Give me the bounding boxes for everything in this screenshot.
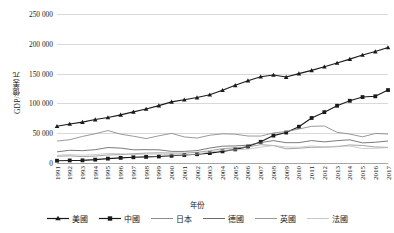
legend-label: 德國 xyxy=(228,213,244,224)
data-point-marker xyxy=(386,45,391,49)
legend-label: 日本 xyxy=(176,213,192,224)
x-tick-label: 1991 xyxy=(54,166,62,180)
data-point-marker xyxy=(131,155,135,159)
x-tick-label: 2003 xyxy=(206,166,214,180)
series-line xyxy=(57,146,388,156)
x-tick-label: 1992 xyxy=(66,166,74,180)
x-tick-label: 1994 xyxy=(92,166,100,180)
legend-swatch-square-icon xyxy=(99,214,121,223)
data-point-marker xyxy=(272,134,276,138)
data-point-marker xyxy=(144,155,148,159)
x-axis-line xyxy=(57,163,388,164)
series-中國 xyxy=(55,88,390,162)
data-point-marker xyxy=(386,88,390,92)
legend-item-法國[interactable]: 法國 xyxy=(307,213,348,224)
series-line xyxy=(57,126,388,141)
x-tick-label: 2016 xyxy=(372,166,380,180)
x-tick-label: 2011 xyxy=(308,166,316,180)
data-point-marker xyxy=(55,159,59,163)
x-tick-label: 2012 xyxy=(321,166,329,180)
x-tick-label: 2008 xyxy=(270,166,278,180)
series-美國 xyxy=(55,45,391,128)
chart-legend: 美國中國日本德國英國法國 xyxy=(0,210,394,226)
series-法國 xyxy=(57,146,388,156)
x-tick-label: 1998 xyxy=(143,166,151,180)
plot-area xyxy=(57,14,388,163)
y-tick-label: 250 000 xyxy=(29,10,53,19)
x-tick-label: 2006 xyxy=(244,166,252,180)
legend-item-德國[interactable]: 德國 xyxy=(203,213,244,224)
legend-label: 英國 xyxy=(280,213,296,224)
legend-item-日本[interactable]: 日本 xyxy=(151,213,192,224)
x-tick-label: 2010 xyxy=(295,166,303,180)
legend-label: 中國 xyxy=(124,213,140,224)
x-tick-label: 2014 xyxy=(346,166,354,180)
x-tick-label: 2001 xyxy=(181,166,189,180)
legend-swatch-triangle-icon xyxy=(47,214,69,223)
x-tick-label: 1999 xyxy=(155,166,163,180)
legend-item-美國[interactable]: 美國 xyxy=(47,213,88,224)
x-tick-label: 2009 xyxy=(283,166,291,180)
y-tick-label: 150 000 xyxy=(29,69,53,78)
data-point-marker xyxy=(93,158,97,162)
series-日本 xyxy=(57,126,388,141)
x-tick-label: 2005 xyxy=(232,166,240,180)
x-tick-label: 1995 xyxy=(104,166,112,180)
y-tick-label: 200 000 xyxy=(29,39,53,48)
data-point-marker xyxy=(81,158,85,162)
y-tick-label: 0 xyxy=(49,159,53,168)
x-tick-label: 1996 xyxy=(117,166,125,180)
data-point-marker xyxy=(297,125,301,129)
data-point-marker xyxy=(335,104,339,108)
data-point-marker xyxy=(322,110,326,114)
legend-item-英國[interactable]: 英國 xyxy=(255,213,296,224)
legend-swatch-none-icon xyxy=(151,214,173,223)
y-tick-label: 100 000 xyxy=(29,99,53,108)
x-tick-label: 2013 xyxy=(334,166,342,180)
x-tick-label: 2017 xyxy=(385,166,393,180)
data-point-marker xyxy=(361,95,365,99)
y-tick-label: 50 000 xyxy=(33,129,53,138)
x-axis-tick-labels: 1991199219931994199519961997199819992000… xyxy=(57,166,388,200)
data-point-marker xyxy=(119,156,123,160)
legend-swatch-none-icon xyxy=(307,214,329,223)
series-line xyxy=(57,47,388,126)
legend-label: 美國 xyxy=(72,213,88,224)
x-axis-title: 年份 xyxy=(0,199,394,210)
y-axis-tick-labels: 050 000100 000150 000200 000250 000 xyxy=(16,0,56,178)
data-point-marker xyxy=(373,94,377,98)
x-tick-label: 2007 xyxy=(257,166,265,180)
legend-item-中國[interactable]: 中國 xyxy=(99,213,140,224)
legend-swatch-none-icon xyxy=(255,214,277,223)
data-point-marker xyxy=(157,155,161,159)
x-tick-label: 2000 xyxy=(168,166,176,180)
x-tick-label: 1993 xyxy=(79,166,87,180)
data-point-marker xyxy=(68,159,72,163)
x-tick-label: 2004 xyxy=(219,166,227,180)
series-layer xyxy=(57,14,388,163)
data-point-marker xyxy=(106,157,110,161)
x-tick-label: 1997 xyxy=(130,166,138,180)
gdp-line-chart: GDP/億美元 050 000100 000150 000200 000250 … xyxy=(0,0,394,233)
data-point-marker xyxy=(310,116,314,120)
legend-label: 法國 xyxy=(332,213,348,224)
x-tick-label: 2002 xyxy=(194,166,202,180)
data-point-marker xyxy=(348,99,352,103)
legend-swatch-none-icon xyxy=(203,214,225,223)
x-tick-label: 2015 xyxy=(359,166,367,180)
